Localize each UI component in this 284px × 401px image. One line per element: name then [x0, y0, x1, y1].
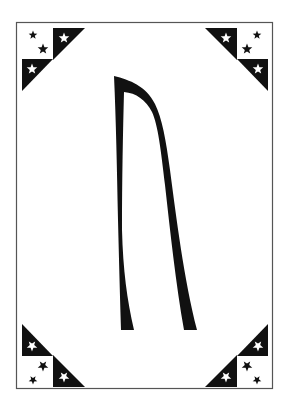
card-artwork — [0, 0, 284, 401]
card-border — [17, 23, 273, 389]
rune-card — [0, 0, 284, 401]
